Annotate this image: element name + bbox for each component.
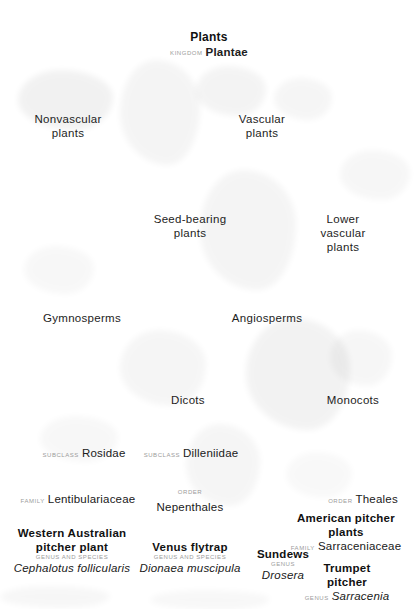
node-lower-vascular-plants[interactable]: Lower vascular plants — [305, 212, 381, 254]
rank-label-kingdom: KINGDOM — [170, 50, 203, 57]
node-monocots[interactable]: Monocots — [327, 393, 379, 407]
node-seed-bearing-plants[interactable]: Seed-bearing plants — [154, 212, 227, 240]
node-gymnosperms[interactable]: Gymnosperms — [43, 311, 121, 325]
node-theales[interactable]: ORDER Theales — [328, 492, 398, 506]
node-label-dicots: Dicots — [171, 393, 205, 407]
node-label-monocots: Monocots — [327, 393, 379, 407]
node-label-angiosperms: Angiosperms — [232, 311, 302, 325]
node-label-lower-vascular-plants: Lower vascular plants — [305, 212, 381, 254]
scientific-name-dilleniidae: Dilleniidae — [183, 446, 238, 460]
scientific-name-theales: Theales — [356, 492, 398, 506]
scientific-name-cephalotus-follicularis: Cephalotus follicularis — [14, 561, 130, 575]
rank-label-order-theales: ORDER — [328, 498, 352, 505]
rank-row-kingdom: KINGDOM Plantae — [170, 45, 248, 59]
node-angiosperms[interactable]: Angiosperms — [232, 311, 302, 325]
rank-row-subclass-rosidae: SUBCLASS Rosidae — [42, 446, 125, 460]
node-label-seed-bearing-plants: Seed-bearing plants — [154, 212, 227, 240]
scientific-name-plantae: Plantae — [206, 45, 248, 59]
node-sarraceniaceae[interactable]: American pitcher plants FAMILY Sarraceni… — [291, 511, 402, 553]
rank-label-subclass-rosidae: SUBCLASS — [42, 452, 78, 459]
node-label-trumpet-pitcher: Trumpet pitcher — [305, 561, 390, 589]
rank-row-family-sarraceniaceae: FAMILY Sarraceniaceae — [291, 539, 402, 553]
rank-label-family-sarraceniaceae: FAMILY — [291, 545, 315, 552]
node-vascular-plants[interactable]: Vascular plants — [239, 112, 285, 140]
rank-row-order-theales: ORDER Theales — [328, 492, 398, 506]
node-lentibulariaceae[interactable]: FAMILY Lentibulariaceae — [21, 492, 136, 506]
taxonomy-diagram: Plants KINGDOM Plantae Nonvascular plant… — [0, 0, 419, 609]
node-dicots[interactable]: Dicots — [171, 393, 205, 407]
node-plants-kingdom[interactable]: Plants KINGDOM Plantae — [170, 30, 248, 59]
node-rosidae[interactable]: SUBCLASS Rosidae — [42, 446, 125, 460]
rank-label-genus-species-cephalotus: GENUS AND SPECIES — [14, 554, 130, 561]
node-label-gymnosperms: Gymnosperms — [43, 311, 121, 325]
rank-label-genus-sarracenia: GENUS — [305, 595, 329, 602]
rank-row-subclass-dilleniidae: SUBCLASS Dilleniidae — [144, 446, 239, 460]
node-label-american-pitcher-plants: American pitcher plants — [291, 511, 402, 539]
scientific-name-sarraceniaceae: Sarraceniaceae — [318, 539, 401, 553]
node-dionaea-muscipula[interactable]: Venus flytrap GENUS AND SPECIES Dionaea … — [139, 540, 240, 575]
scientific-name-dionaea-muscipula: Dionaea muscipula — [139, 561, 240, 575]
node-label-venus-flytrap: Venus flytrap — [139, 540, 240, 554]
node-sarracenia[interactable]: Trumpet pitcher GENUS Sarracenia — [305, 561, 390, 603]
node-label-plants: Plants — [170, 30, 248, 45]
rank-label-genus-species-dionaea: GENUS AND SPECIES — [139, 554, 240, 561]
rank-row-genus-sarracenia: GENUS Sarracenia — [305, 589, 390, 603]
node-cephalotus-follicularis[interactable]: Western Australian pitcher plant GENUS A… — [14, 526, 130, 575]
scientific-name-drosera: Drosera — [257, 568, 309, 582]
node-dilleniidae[interactable]: SUBCLASS Dilleniidae — [144, 446, 239, 460]
scientific-name-lentibulariaceae: Lentibulariaceae — [48, 492, 136, 506]
rank-label-subclass-dilleniidae: SUBCLASS — [144, 452, 180, 459]
scientific-name-sarracenia: Sarracenia — [332, 589, 390, 603]
node-label-nonvascular-plants: Nonvascular plants — [34, 112, 101, 140]
node-nepenthales[interactable]: ORDER Nepenthales — [157, 489, 224, 516]
rank-label-family-lentibulariaceae: FAMILY — [21, 498, 45, 505]
rank-row-family-lentibulariaceae: FAMILY Lentibulariaceae — [21, 492, 136, 506]
scientific-name-nepenthales: Nepenthales — [157, 501, 224, 513]
rank-label-order-nepenthales: ORDER — [157, 489, 224, 496]
rank-label-genus-drosera: GENUS — [257, 561, 309, 568]
scientific-name-rosidae: Rosidae — [82, 446, 126, 460]
node-nonvascular-plants[interactable]: Nonvascular plants — [34, 112, 101, 140]
node-label-vascular-plants: Vascular plants — [239, 112, 285, 140]
node-label-western-australian-pitcher-plant: Western Australian pitcher plant — [14, 526, 130, 554]
